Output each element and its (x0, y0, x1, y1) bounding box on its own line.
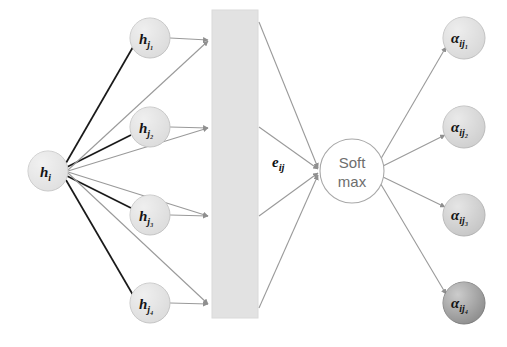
edge-hj1-bar (170, 38, 208, 40)
node-h-j1-label-main: h (139, 31, 147, 47)
edges-softmax-to-attention (379, 47, 446, 294)
edges-source-to-bar (68, 41, 208, 304)
node-alpha-ij3-label-sub: ij₃ (459, 215, 468, 226)
attention-bar (212, 10, 258, 318)
node-h-j2-label-main: h (139, 120, 147, 136)
node-h-i[interactable]: hi (28, 151, 68, 191)
node-h-j4-label-main: h (139, 296, 147, 312)
node-h-j4-label-sub: j₄ (145, 304, 153, 315)
edge-hi-bar-1 (68, 41, 208, 170)
softmax-label-line1: Soft (339, 154, 367, 171)
node-h-i-label-sub: i (48, 172, 51, 183)
softmax-circle (320, 139, 384, 203)
node-h-j2-sheen (130, 107, 170, 147)
edges-bar-to-softmax (259, 22, 318, 308)
node-alpha-ij1[interactable]: αij₁ (443, 17, 485, 59)
node-h-j2[interactable]: hj₂ (130, 107, 170, 147)
node-h-j3-sheen (130, 195, 170, 235)
edge-bar-softmax-1 (259, 22, 318, 168)
edge-hi-hj4 (66, 180, 133, 295)
node-alpha-ij4[interactable]: αij₄ (443, 282, 485, 324)
edge-bar-softmax-2 (259, 127, 318, 169)
node-h-j1[interactable]: hj₁ (130, 18, 170, 58)
edges-source-to-neighbors (66, 47, 133, 295)
node-h-j3-label-main: h (139, 208, 147, 224)
edge-hj3-bar (170, 215, 208, 216)
edge-hi-bar-4 (68, 173, 208, 304)
node-h-j1-sheen (130, 18, 170, 58)
node-h-j1-label-sub: j₁ (145, 39, 153, 50)
node-alpha-ij1-label-sub: ij₁ (459, 38, 468, 49)
edge-hj2-bar (170, 127, 208, 128)
edges-neighbors-to-bar (170, 38, 208, 304)
edge-hj4-bar (170, 303, 208, 304)
node-alpha-ij3[interactable]: αij₃ (443, 194, 485, 236)
edge-hi-hj1 (66, 47, 133, 163)
energy-label-sub: ij (279, 162, 285, 173)
node-h-i-label-main: h (40, 164, 48, 180)
node-alpha-ij4-label-sub: ij₄ (459, 303, 468, 314)
node-h-j2-label-sub: j₂ (145, 128, 153, 139)
softmax-node[interactable]: Soft max (320, 139, 384, 203)
node-alpha-ij2[interactable]: αij₂ (443, 106, 485, 148)
diagram-canvas: hi hj₁ hj₂ hj₃ (0, 0, 507, 347)
energy-label-e-ij: eij (272, 154, 285, 173)
edge-softmax-alpha4 (379, 181, 446, 294)
node-h-j3[interactable]: hj₃ (130, 195, 170, 235)
node-h-j4-sheen (130, 283, 170, 323)
node-alpha-ij2-label-sub: ij₂ (459, 127, 468, 138)
node-h-j3-label-sub: j₃ (145, 216, 153, 227)
edge-softmax-alpha1 (379, 47, 446, 162)
node-h-j4[interactable]: hj₄ (130, 283, 170, 323)
softmax-label-line2: max (338, 173, 367, 190)
attention-diagram: hi hj₁ hj₂ hj₃ (0, 0, 507, 347)
